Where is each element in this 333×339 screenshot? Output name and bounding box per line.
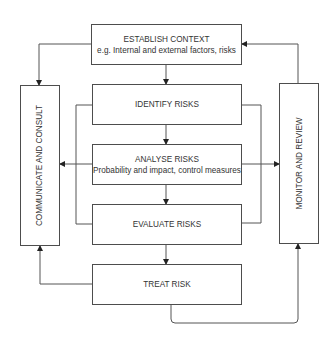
evaluate-risks-box: EVALUATE RISKS [92,204,242,245]
evaluate-risks-title: EVALUATE RISKS [133,219,201,230]
communicate-consult-box: COMMUNICATE AND CONSULT [20,85,60,246]
edge-monitor-to-context [242,44,298,83]
identify-risks-box: IDENTIFY RISKS [92,84,242,125]
analyse-risks-subtitle: Probability and impact, control measures [93,165,241,176]
identify-risks-title: IDENTIFY RISKS [135,99,199,110]
treat-risk-box: TREAT RISK [92,264,242,305]
establish-context-subtitle: e.g. Internal and external factors, risk… [97,45,236,56]
communicate-consult-title: COMMUNICATE AND CONSULT [35,105,46,226]
treat-risk-title: TREAT RISK [143,279,190,290]
edge-context-to-communicate [39,44,91,85]
establish-context-title: ESTABLISH CONTEXT [124,34,210,45]
monitor-review-box: MONITOR AND REVIEW [279,83,319,244]
edge-treat-to-communicate [40,246,92,284]
establish-context-box: ESTABLISH CONTEXT e.g. Internal and exte… [91,24,242,65]
analyse-risks-title: ANALYSE RISKS [135,154,199,165]
monitor-review-title: MONITOR AND REVIEW [294,117,305,209]
analyse-risks-box: ANALYSE RISKS Probability and impact, co… [92,144,242,185]
